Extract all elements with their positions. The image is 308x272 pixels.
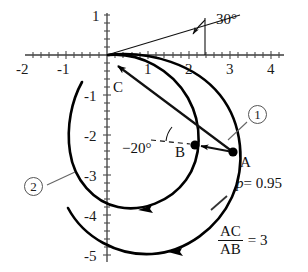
damping-value: = 0.95 bbox=[244, 175, 282, 191]
thirty-degree-arc bbox=[193, 20, 205, 34]
point-b-label: B bbox=[175, 145, 185, 160]
y-tick-label-neg1: -1 bbox=[84, 89, 97, 104]
x-tick-label-2: 2 bbox=[185, 62, 193, 77]
point-a-marker bbox=[228, 147, 237, 156]
branch-2-callout: 2 bbox=[24, 177, 43, 196]
damping-symbol: p bbox=[236, 175, 244, 191]
y-tick-label-neg4: -4 bbox=[84, 209, 97, 224]
point-c-label: C bbox=[113, 80, 123, 95]
x-tick-label-neg1: -1 bbox=[57, 62, 70, 77]
ratio-fraction: AC AB bbox=[218, 224, 243, 257]
angle-30-label: 30° bbox=[216, 12, 237, 27]
callout-2-leader bbox=[47, 172, 75, 185]
damping-ratio-note: p= 0.95 bbox=[236, 176, 282, 191]
ratio-equals-value: = 3 bbox=[248, 233, 268, 248]
angle-neg20-label: −20° bbox=[122, 141, 151, 156]
y-tick-label-1: 1 bbox=[92, 9, 100, 24]
figure-root: -2 -1 1 2 3 4 1 -1 -2 -3 -4 -5 30° −20° … bbox=[0, 0, 308, 272]
y-tick-label-neg3: -3 bbox=[84, 169, 97, 184]
ratio-numerator: AC bbox=[218, 224, 243, 240]
neg-twenty-arc bbox=[166, 127, 172, 141]
ratio-leader bbox=[211, 196, 227, 210]
x-tick-label-1: 1 bbox=[144, 62, 152, 77]
point-a-label: A bbox=[240, 155, 251, 170]
x-tick-label-4: 4 bbox=[267, 62, 275, 77]
ratio-expression: AC AB = 3 bbox=[218, 224, 268, 257]
x-tick-label-neg2: -2 bbox=[16, 62, 29, 77]
point-b-marker bbox=[190, 140, 199, 149]
ratio-denominator: AB bbox=[218, 240, 243, 257]
x-tick-label-3: 3 bbox=[226, 62, 234, 77]
branch-1-curve bbox=[68, 54, 240, 254]
branch-1-callout: 1 bbox=[248, 105, 267, 124]
y-tick-label-neg5: -5 bbox=[84, 249, 97, 264]
y-tick-label-neg2: -2 bbox=[84, 129, 97, 144]
